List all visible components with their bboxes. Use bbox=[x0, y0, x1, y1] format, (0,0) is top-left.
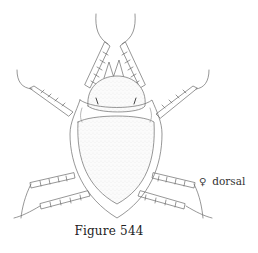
female-symbol-icon: ♀ bbox=[199, 176, 206, 187]
leg-ii-left-seta bbox=[17, 70, 32, 89]
view-text: dorsal bbox=[212, 175, 245, 187]
leg-iii-right bbox=[152, 173, 195, 188]
leg-i-right-seta bbox=[122, 14, 135, 44]
view-label: ♀dorsal bbox=[199, 175, 245, 187]
leg-iv-right-seta bbox=[186, 206, 212, 218]
leg-iii-left bbox=[30, 173, 75, 188]
leg-ii-right bbox=[156, 86, 197, 118]
chelicera-right bbox=[113, 60, 124, 78]
leg-i-left-seta bbox=[96, 14, 108, 44]
leg-ii-right-seta bbox=[196, 70, 209, 89]
leg-iii-left-seta bbox=[21, 184, 31, 218]
dorsal-plate bbox=[78, 116, 154, 204]
leg-ii-left bbox=[30, 86, 73, 116]
mite-illustration bbox=[0, 0, 258, 253]
leg-iv-left bbox=[40, 191, 90, 209]
leg-iv-left-seta bbox=[14, 206, 40, 218]
chelicera-left bbox=[104, 62, 114, 78]
leg-iv-right bbox=[138, 191, 185, 209]
figure-caption: Figure 544 bbox=[0, 224, 258, 238]
